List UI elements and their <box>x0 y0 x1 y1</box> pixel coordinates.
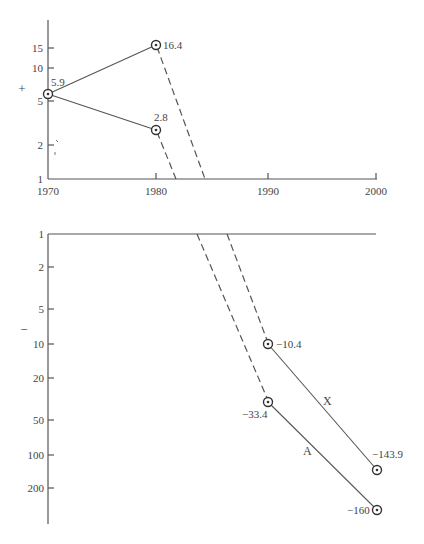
value-label: −33.4 <box>242 408 268 420</box>
top-y-tick-label: 1 <box>38 173 44 185</box>
series-a-line <box>268 402 377 510</box>
value-label: 5.9 <box>51 76 65 88</box>
top-y-tick-label: 2 <box>38 139 44 151</box>
point-marker-icon <box>152 126 161 135</box>
top-y-tick-label: 15 <box>32 42 44 54</box>
top-x-tick-label: 1970 <box>37 185 60 197</box>
bottom-sign-label: − <box>20 322 27 337</box>
top-x-tick-label: 1990 <box>257 185 280 197</box>
bottom-y-tick-label: 100 <box>28 449 45 461</box>
bottom-y-tick-label: 10 <box>33 338 45 350</box>
chart-canvas: 15 10 5 2 1 1970 1980 1990 2000 + <box>0 0 424 544</box>
series-label-a: A <box>303 444 312 458</box>
bottom-y-ticks: 1 2 5 10 20 50 100 200 <box>28 228 55 494</box>
point-marker-icon <box>264 398 273 407</box>
point-marker-icon <box>152 41 161 50</box>
value-label: 16.4 <box>163 39 183 51</box>
value-label: −160 <box>347 504 370 516</box>
top-lower-projection <box>157 132 176 179</box>
bottom-y-tick-label: 50 <box>33 414 45 426</box>
top-x-ticks: 1970 1980 1990 2000 <box>37 173 388 197</box>
bottom-panel: 1 2 5 10 20 50 100 200 − −1 <box>20 228 403 524</box>
point-marker-icon <box>373 506 382 515</box>
series-label-x: X <box>323 394 332 408</box>
top-y-tick-label: 10 <box>32 62 44 74</box>
top-x-tick-label: 2000 <box>365 185 388 197</box>
value-label: −143.9 <box>372 448 403 460</box>
value-label: 2.8 <box>154 111 168 123</box>
bottom-x-projection <box>227 234 267 340</box>
top-sign-label: + <box>18 81 25 96</box>
bottom-y-tick-label: 5 <box>39 303 45 315</box>
bottom-a-projection <box>197 234 267 398</box>
point-marker-icon <box>264 340 273 349</box>
top-panel: 15 10 5 2 1 1970 1980 1990 2000 + <box>18 20 387 197</box>
bottom-y-tick-label: 200 <box>28 482 45 494</box>
value-label: −10.4 <box>276 338 302 350</box>
top-y-ticks: 15 10 5 2 1 <box>32 42 54 185</box>
top-y-tick-label: 5 <box>38 95 44 107</box>
point-marker-icon <box>44 90 53 99</box>
top-x-tick-label: 1980 <box>145 185 168 197</box>
bottom-y-tick-label: 2 <box>39 261 45 273</box>
point-marker-icon <box>373 466 382 475</box>
top-lower-line <box>48 94 156 130</box>
bottom-y-tick-label: 20 <box>33 372 45 384</box>
bottom-y-tick-label: 1 <box>39 228 45 240</box>
